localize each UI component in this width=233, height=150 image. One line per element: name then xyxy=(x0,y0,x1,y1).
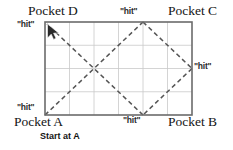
hit-label-top-middle: "hit" xyxy=(120,7,137,16)
pocket-label-d: Pocket D xyxy=(28,4,78,18)
pocket-label-c: Pocket C xyxy=(168,4,217,18)
pocket-label-b: Pocket B xyxy=(168,115,217,129)
start-caption: Start at A xyxy=(40,131,80,141)
pocket-label-a: Pocket A xyxy=(14,115,63,129)
billiard-table-figure: Pocket D Pocket C Pocket A Pocket B "hit… xyxy=(0,0,233,150)
hit-label-bottom-middle: "hit" xyxy=(123,116,140,125)
hit-label-top-left: "hit" xyxy=(17,20,34,29)
hit-label-bottom-left: "hit" xyxy=(17,103,34,112)
hit-label-right: "hit" xyxy=(194,62,211,71)
